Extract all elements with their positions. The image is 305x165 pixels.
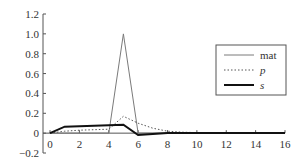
legend-label-s: s <box>260 79 264 91</box>
y-tick-label: 0.8 <box>25 48 39 60</box>
y-tick-label: −0.2 <box>19 147 39 159</box>
x-tick-label: 4 <box>106 138 112 150</box>
x-tick-label: 6 <box>135 138 141 150</box>
x-tick-label: 8 <box>165 138 171 150</box>
x-tick-label: 2 <box>77 138 83 150</box>
y-tick-label: 0 <box>34 127 40 139</box>
x-tick-label: 16 <box>280 138 292 150</box>
x-tick-label: 12 <box>221 138 232 150</box>
legend: matps <box>216 45 286 95</box>
x-tick-label: 0 <box>47 138 53 150</box>
x-tick-label: 14 <box>250 138 262 150</box>
legend-label-p: p <box>259 64 266 76</box>
y-tick-label: 1.0 <box>25 28 39 40</box>
y-tick-label: 0.6 <box>25 68 39 80</box>
x-tick-label: 10 <box>191 138 203 150</box>
y-tick-label: 0.2 <box>25 107 39 119</box>
legend-label-mat: mat <box>260 49 277 61</box>
y-tick-label: 0.4 <box>25 87 39 99</box>
line-chart: −0.200.20.40.60.81.01.20246810121416 mat… <box>0 0 305 165</box>
y-tick-label: 1.2 <box>25 8 39 20</box>
